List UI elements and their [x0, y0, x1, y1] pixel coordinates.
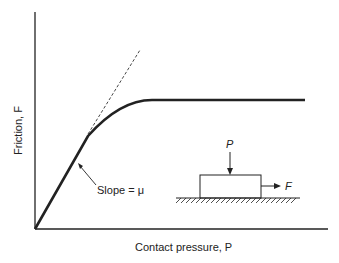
ground-hatching [176, 198, 296, 203]
y-axis-label: Friction, F [12, 106, 24, 155]
pressure-arrowhead [227, 168, 233, 175]
slope-label: Slope = μ [97, 184, 144, 196]
x-axis-label: Contact pressure, P [135, 241, 232, 253]
friction-arrowhead [274, 183, 281, 189]
block [200, 175, 261, 198]
force-p-label: P [226, 138, 234, 150]
force-f-label: F [285, 180, 293, 192]
friction-curve [35, 100, 305, 229]
slope-pointer [80, 166, 96, 185]
slope-tangent-dashed [88, 50, 140, 134]
friction-diagram: P F Slope = μ Contact pressure, P Fricti… [0, 0, 339, 263]
